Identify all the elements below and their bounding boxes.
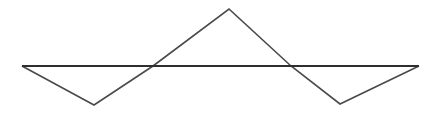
line-drawing [0,0,440,116]
figure-canvas [0,0,440,116]
figure-background [0,0,440,116]
